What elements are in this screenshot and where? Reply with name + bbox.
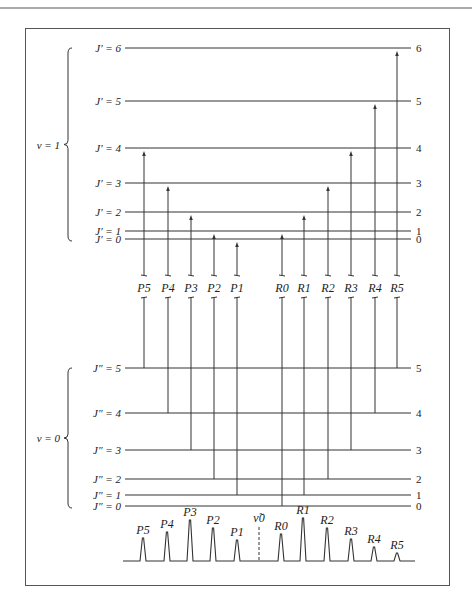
peak-label: P1 bbox=[229, 525, 243, 539]
tick-mark bbox=[188, 275, 194, 276]
upper-level-label: J′ = 2 bbox=[95, 206, 121, 218]
arrowhead-icon bbox=[280, 234, 284, 239]
vibrational-quantum-label: v = 1 bbox=[37, 139, 60, 151]
upper-level-label: J′ = 5 bbox=[95, 95, 121, 107]
lower-level-label: J″ = 4 bbox=[93, 407, 121, 419]
upper-level-label: J′ = 4 bbox=[95, 142, 121, 154]
lower-level-label: J″ = 1 bbox=[93, 489, 121, 501]
peak-label: R4 bbox=[366, 532, 380, 546]
tick-mark bbox=[372, 275, 378, 276]
upper-level-number: 2 bbox=[416, 206, 422, 218]
rovibrational-energy-diagram: J′ = 00J′ = 11J′ = 22J′ = 33J′ = 44J′ = … bbox=[0, 0, 472, 607]
tick-mark bbox=[211, 275, 217, 276]
upper-level-label: J′ = 6 bbox=[95, 42, 121, 54]
spectrum-trace: P5P4P3P2P1R0R1R2R3R4R5ν̃0 bbox=[123, 503, 415, 561]
upper-level-number: 1 bbox=[416, 225, 422, 237]
lower-level-number: 1 bbox=[416, 489, 422, 501]
tick-mark bbox=[141, 275, 147, 276]
peak-label: R5 bbox=[389, 538, 403, 552]
tick-mark bbox=[348, 275, 354, 276]
arrowhead-icon bbox=[142, 151, 146, 156]
lower-level-label: J″ = 2 bbox=[93, 473, 121, 485]
state-braces: v = 1v = 0 bbox=[37, 48, 72, 508]
lower-level-label: J″ = 5 bbox=[93, 362, 121, 374]
peak-label: R1 bbox=[295, 503, 309, 517]
tick-mark bbox=[234, 275, 240, 276]
tick-mark bbox=[279, 275, 285, 276]
transition-label: P3 bbox=[183, 281, 197, 295]
transition-label: P1 bbox=[229, 281, 243, 295]
lower-level-number: 4 bbox=[416, 407, 422, 419]
peak-label: R0 bbox=[273, 519, 287, 533]
transition-label: R2 bbox=[320, 281, 334, 295]
upper-level-number: 3 bbox=[416, 177, 422, 189]
tick-mark bbox=[301, 275, 307, 276]
vibrational-quantum-label: v = 0 bbox=[37, 432, 61, 444]
upper-level-number: 6 bbox=[416, 42, 422, 54]
transition-label: R0 bbox=[274, 281, 288, 295]
transition-label: R3 bbox=[343, 281, 357, 295]
lower-level-number: 2 bbox=[416, 473, 422, 485]
lower-level-label: J″ = 3 bbox=[93, 444, 121, 456]
arrowhead-icon bbox=[349, 151, 353, 156]
curly-brace-icon bbox=[64, 368, 72, 508]
lower-level-number: 0 bbox=[416, 500, 422, 512]
arrowhead-icon bbox=[326, 186, 330, 191]
tick-mark bbox=[325, 275, 331, 276]
peak-label: P5 bbox=[135, 523, 149, 537]
transition-label: P2 bbox=[206, 281, 220, 295]
lower-level-number: 5 bbox=[416, 362, 422, 374]
arrowhead-icon bbox=[395, 51, 399, 56]
curly-brace-icon bbox=[64, 48, 72, 241]
peak-label: P3 bbox=[182, 505, 196, 519]
arrowhead-icon bbox=[189, 215, 193, 220]
transition-label: P5 bbox=[136, 281, 150, 295]
tick-mark bbox=[394, 275, 400, 276]
transition-label: R1 bbox=[296, 281, 310, 295]
peak-label: P4 bbox=[159, 517, 173, 531]
arrowhead-icon bbox=[212, 234, 216, 239]
peak-label: R3 bbox=[343, 524, 357, 538]
lower-level-label: J″ = 0 bbox=[93, 500, 121, 512]
upper-level-label: J′ = 1 bbox=[95, 225, 121, 237]
arrowhead-icon bbox=[166, 186, 170, 191]
lower-level-number: 3 bbox=[416, 444, 422, 456]
arrowhead-icon bbox=[302, 215, 306, 220]
upper-level-number: 4 bbox=[416, 142, 422, 154]
upper-level-label: J′ = 3 bbox=[95, 177, 121, 189]
upper-level-number: 5 bbox=[416, 95, 422, 107]
peak-label: R2 bbox=[319, 513, 333, 527]
arrowhead-icon bbox=[373, 104, 377, 109]
lower-vibrational-levels: J″ = 00J″ = 11J″ = 22J″ = 33J″ = 44J″ = … bbox=[93, 362, 422, 512]
transition-label: R5 bbox=[389, 281, 403, 295]
transition-label: P4 bbox=[160, 281, 174, 295]
arrowhead-icon bbox=[235, 242, 239, 247]
transition-arrows: P5P4P3P2P1R0R1R2R3R4R5 bbox=[136, 51, 403, 506]
peak-label: P2 bbox=[205, 513, 219, 527]
transition-label: R4 bbox=[367, 281, 381, 295]
tick-mark bbox=[165, 275, 171, 276]
band-origin-label: ν̃0 bbox=[253, 511, 264, 525]
